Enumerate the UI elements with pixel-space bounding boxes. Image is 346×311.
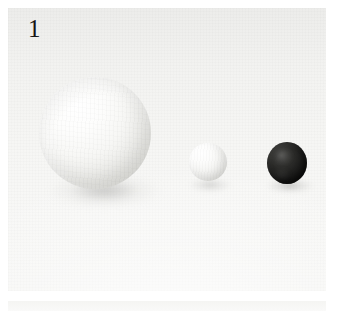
large-white-sphere bbox=[39, 77, 151, 189]
panel-label: 1 bbox=[28, 16, 41, 41]
medium-sphere-shadow bbox=[189, 179, 233, 193]
medium-sphere-texture bbox=[189, 143, 227, 181]
large-sphere-rim-shading bbox=[39, 77, 151, 189]
dark-sphere-specular-highlight bbox=[276, 150, 291, 163]
large-sphere-texture bbox=[39, 77, 151, 189]
lower-figure-strip bbox=[8, 301, 326, 311]
small-white-sphere bbox=[189, 143, 227, 181]
dark-sphere-bounce-light bbox=[272, 169, 290, 179]
small-black-sphere bbox=[267, 142, 307, 184]
figure-panel-1: 1 bbox=[0, 0, 346, 311]
photo-image: 1 bbox=[8, 8, 326, 291]
